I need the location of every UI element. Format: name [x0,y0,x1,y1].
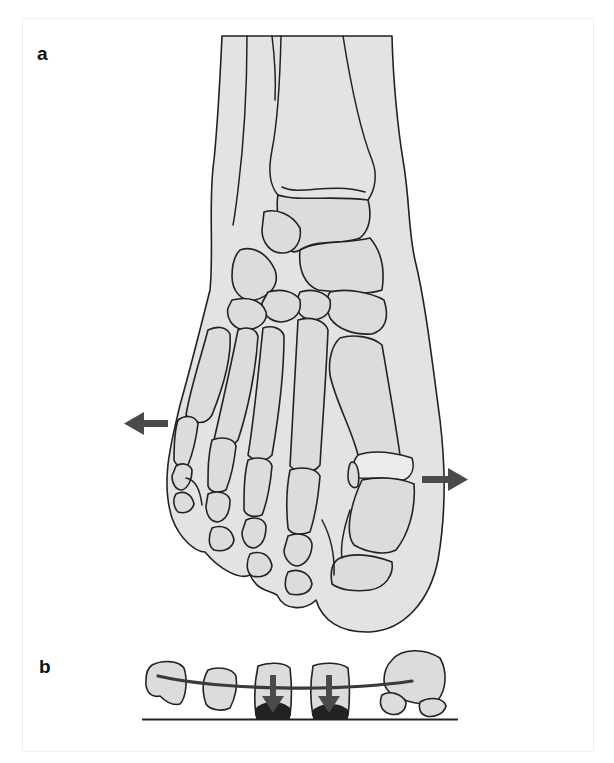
metatarsal-head-5 [146,662,186,705]
metatarsal-head-4 [203,668,236,710]
cuneiform-lateral-block [300,238,383,293]
foot-illustration [0,0,614,763]
cuneiform-lateral [262,290,300,322]
sesamoid-medial [348,462,359,488]
left-spread-arrow [124,412,168,435]
panel-a-foot-dorsal-view [124,36,468,632]
hallux-distal-phalanx [331,555,392,591]
panel-b-metatarsal-heads-coronal [142,651,458,720]
sesamoid-medial-b [419,699,446,717]
first-mtp-joint-cartilage [354,452,414,480]
cuboid-distal [228,299,267,331]
